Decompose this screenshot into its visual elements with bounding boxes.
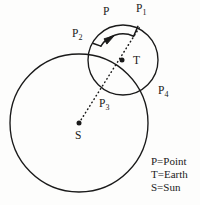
label-p4: P4 — [158, 85, 168, 99]
label-s: S — [75, 130, 81, 142]
diagram-canvas: P P1 P2 T P3 P4 S P=Point T=Earth S=Sun — [0, 0, 200, 205]
legend-line-earth: T=Earth — [151, 168, 188, 181]
label-t: T — [133, 55, 140, 67]
legend-line-sun: S=Sun — [151, 181, 188, 194]
sun-center-dot — [77, 121, 82, 126]
arc-tick-end — [93, 44, 101, 47]
label-p: P — [103, 6, 109, 18]
label-p1: P1 — [136, 3, 146, 17]
earth-center-dot — [120, 58, 125, 63]
legend-line-point: P=Point — [151, 155, 188, 168]
arc-arrowhead-icon — [104, 36, 114, 44]
legend: P=Point T=Earth S=Sun — [151, 155, 188, 194]
label-p3: P3 — [99, 98, 109, 112]
label-p2: P2 — [72, 28, 82, 42]
